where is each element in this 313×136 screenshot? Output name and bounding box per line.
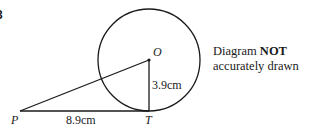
note-bold: NOT <box>260 44 287 58</box>
note-prefix: Diagram <box>213 44 260 58</box>
measurement-OT: 3.9cm <box>152 79 182 91</box>
diagram-note: Diagram NOT accurately drawn <box>213 44 299 74</box>
label-P: P <box>11 114 18 126</box>
label-O: O <box>153 46 162 58</box>
measurement-PT: 8.9cm <box>66 114 96 126</box>
line-PO <box>20 60 149 111</box>
label-T: T <box>145 114 152 126</box>
note-line2: accurately drawn <box>213 59 299 74</box>
center-point-O <box>147 58 150 61</box>
